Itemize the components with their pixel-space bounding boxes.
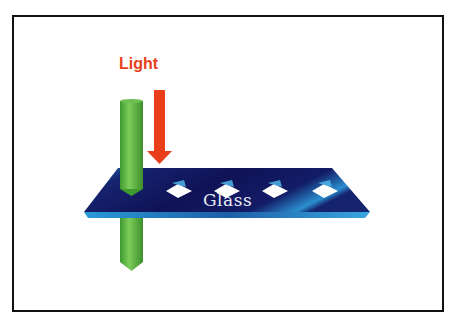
glass-label: Glass [203,190,252,210]
diagram-canvas [0,0,457,322]
green-beam-lower [120,215,143,271]
light-label: Light [119,55,158,73]
red-light-arrow [147,90,172,164]
green-beam-upper [120,99,143,196]
